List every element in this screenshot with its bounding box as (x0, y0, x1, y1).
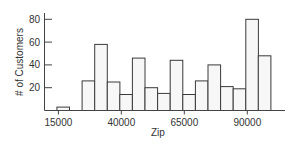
histogram-bar (82, 81, 95, 111)
histogram-bar (221, 87, 234, 111)
y-tick-label: 60 (29, 37, 41, 48)
histogram-bar (120, 95, 133, 111)
histogram-bar (183, 95, 196, 111)
histogram-bar (95, 44, 108, 110)
histogram-bar (246, 19, 259, 110)
y-tick-label: 20 (29, 82, 41, 93)
histogram-bars (57, 19, 271, 110)
histogram-bar (195, 81, 208, 111)
histogram-bar (208, 65, 221, 111)
histogram-bar (57, 107, 70, 110)
histogram-bar (107, 82, 120, 111)
histogram-bar (170, 60, 183, 110)
x-axis-ticks: 15000400006500090000 (44, 111, 261, 129)
x-tick-label: 65000 (170, 117, 198, 128)
x-tick-label: 15000 (44, 117, 72, 128)
x-tick-label: 40000 (107, 117, 135, 128)
histogram-bar (132, 58, 145, 110)
histogram-bar (233, 89, 246, 111)
y-axis-title: # of Customers (14, 28, 25, 96)
histogram-bar (258, 56, 271, 111)
y-axis-ticks: 20406080 (29, 14, 52, 93)
x-axis-title: Zip (151, 127, 165, 138)
x-tick-label: 90000 (233, 117, 261, 128)
histogram-chart: 20406080 15000400006500090000 # of Custo… (0, 0, 302, 150)
histogram-bar (145, 88, 158, 111)
y-tick-label: 40 (29, 59, 41, 70)
y-tick-label: 80 (29, 14, 41, 25)
histogram-bar (158, 93, 171, 110)
